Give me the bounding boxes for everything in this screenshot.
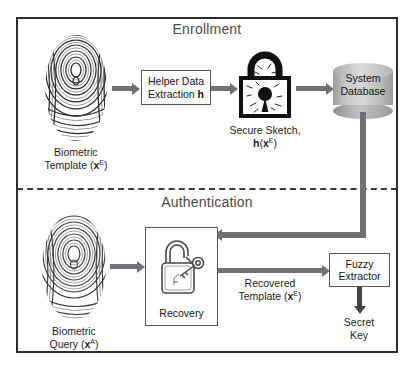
fuzzy-box-line-1: Fuzzy <box>345 258 373 270</box>
recovery-box-label: Recovery <box>146 307 217 320</box>
database-label-line-1: System <box>345 72 380 84</box>
arrow-helper-to-sketch <box>211 86 230 91</box>
helper-data-extraction-box[interactable]: Helper Data Extraction h <box>141 70 211 105</box>
fingerprint-query-image <box>38 212 110 322</box>
secure-sketch-caption: Secure Sketch, h(xE) <box>215 124 315 149</box>
database-label-line-2: Database <box>341 85 386 97</box>
helper-box-line-1: Helper Data <box>148 75 204 87</box>
fuzzy-box-line-2: Extractor <box>338 270 380 282</box>
helper-box-line-2-prefix: Extraction <box>148 88 198 100</box>
query-caption-line-2-prefix: Query ( <box>49 338 84 350</box>
caption-line-1: Biometric <box>54 146 98 158</box>
secret-key-line-2: Key <box>350 329 368 341</box>
caption-line-2-suffix: ) <box>104 159 108 171</box>
fingerprint-template-image <box>42 33 110 143</box>
sketch-caption-close: ) <box>273 137 277 149</box>
arrow-fuzzy-to-secret-key <box>357 287 362 306</box>
query-caption-line-1: Biometric <box>52 325 96 337</box>
open-padlock-icon <box>152 232 214 298</box>
system-database-cylinder[interactable]: System Database <box>333 63 393 111</box>
recovered-caption-line-2-suffix: ) <box>298 290 302 302</box>
arrow-template-to-helper <box>112 86 132 91</box>
arrowhead-fuzzy-to-secret-key <box>354 306 366 314</box>
arrow-query-to-recovery <box>110 264 137 269</box>
recovered-caption-line-2-prefix: Template ( <box>238 290 287 302</box>
database-label: System Database <box>333 72 393 97</box>
helper-box-h-symbol: h <box>198 88 204 100</box>
section-divider <box>17 188 397 190</box>
fingerprint-query-caption: Biometric Query (xA) <box>20 325 128 350</box>
arrow-database-left-segment <box>222 232 366 238</box>
fuzzy-extractor-box[interactable]: Fuzzy Extractor <box>329 253 390 287</box>
section-title-authentication: Authentication <box>0 194 414 210</box>
sketch-caption-line-1: Secure Sketch, <box>229 124 300 136</box>
arrow-database-down-segment <box>360 112 366 238</box>
arrow-sketch-to-database <box>296 86 326 91</box>
secret-key-line-1: Secret <box>344 316 374 328</box>
arrowhead-query-to-recovery <box>137 261 145 273</box>
fingerprint-template-caption: Biometric Template (xE) <box>22 146 130 171</box>
secret-key-label: Secret Key <box>305 316 413 341</box>
caption-line-2-prefix: Template ( <box>44 159 93 171</box>
recovery-box[interactable]: Recovery <box>145 227 218 326</box>
recovered-template-caption: Recovered Template (xE) <box>216 277 324 302</box>
recovered-caption-line-1: Recovered <box>245 277 296 289</box>
query-caption-line-2-suffix: ) <box>95 338 99 350</box>
arrowhead-template-to-helper <box>132 83 140 95</box>
arrow-recovery-to-fuzzy <box>218 268 322 273</box>
closed-padlock-icon <box>234 48 296 120</box>
figure-canvas: Enrollment Authentication <box>0 0 414 377</box>
